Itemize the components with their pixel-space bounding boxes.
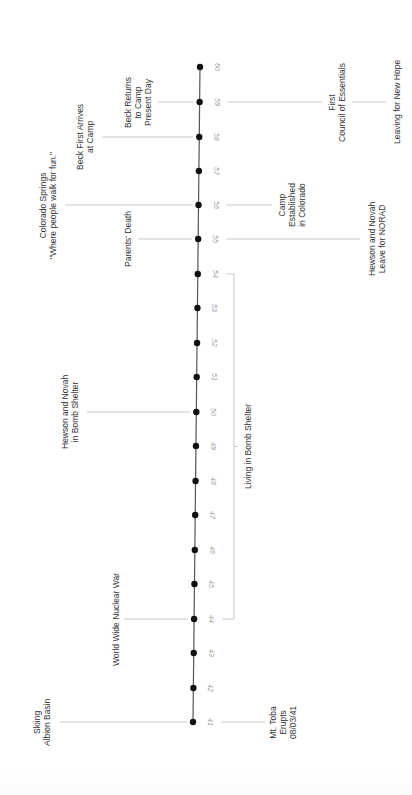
- year-dot: [195, 202, 201, 208]
- year-tick-label: 48: [210, 477, 217, 485]
- year-tick-label: 46: [209, 546, 216, 554]
- year-tick-label: 54: [212, 270, 219, 278]
- year-dot: [190, 685, 196, 691]
- year-tick-label: 49: [210, 442, 217, 450]
- year-dot: [196, 99, 202, 105]
- event-label: Mt. Toba Erupts 08/03/41: [268, 705, 298, 738]
- year-dot: [190, 719, 196, 725]
- bottom-fade: [0, 770, 412, 795]
- timeline-axis: [193, 67, 200, 722]
- year-tick-label: 51: [211, 373, 218, 381]
- year-dot: [196, 134, 202, 140]
- year-dot: [194, 305, 200, 311]
- event-label: Skiing Albion Basin: [32, 698, 52, 745]
- year-dot: [195, 271, 201, 277]
- year-tick-label: 52: [211, 339, 218, 347]
- year-dot: [193, 374, 199, 380]
- event-label: Beck First Arrives at Camp: [75, 104, 95, 170]
- year-tick-label: 41: [207, 718, 214, 726]
- event-label: Camp Established in Colorado: [277, 183, 307, 227]
- span-label: Living in Bomb Shelter: [243, 404, 253, 489]
- event-label: Hewson and Novah Leave for NORAD: [367, 202, 387, 276]
- year-dot: [191, 650, 197, 656]
- year-tick-label: 57: [213, 167, 220, 175]
- year-dot: [193, 409, 199, 415]
- year-dot: [194, 340, 200, 346]
- year-tick-label: 43: [208, 649, 215, 657]
- year-dot: [191, 616, 197, 622]
- year-dot: [192, 547, 198, 553]
- event-label: Parents' Death: [123, 211, 133, 267]
- year-dot: [192, 512, 198, 518]
- year-tick-label: 42: [207, 684, 214, 692]
- year-tick-label: 59: [214, 98, 221, 106]
- event-label: First Council of Essentials: [327, 63, 347, 142]
- year-tick-label: 50: [210, 408, 217, 416]
- timeline-diagram: 4142434445464748495051525354555657585960…: [0, 0, 412, 795]
- year-dot: [196, 168, 202, 174]
- event-label: Hewson and Novah in Bomb Shelter: [60, 375, 80, 449]
- event-label: Colorado Springs "Where people walk for …: [38, 151, 58, 258]
- year-dot: [191, 581, 197, 587]
- year-tick-label: 44: [208, 615, 215, 623]
- event-label: Leaving for New Hope: [392, 60, 402, 144]
- event-label: World Wide Nuclear War: [111, 572, 121, 665]
- year-tick-label: 47: [209, 511, 216, 519]
- year-tick-label: 58: [213, 133, 220, 141]
- year-dot: [192, 478, 198, 484]
- year-tick-label: 45: [208, 580, 215, 588]
- year-dot: [197, 64, 203, 70]
- event-label: Beck Returns to Camp Present Day: [123, 76, 153, 127]
- year-tick-label: 53: [211, 304, 218, 312]
- year-tick-label: 60: [214, 63, 221, 71]
- year-dot: [195, 236, 201, 242]
- year-tick-label: 56: [213, 201, 220, 209]
- year-tick-label: 55: [212, 235, 219, 243]
- year-dot: [193, 443, 199, 449]
